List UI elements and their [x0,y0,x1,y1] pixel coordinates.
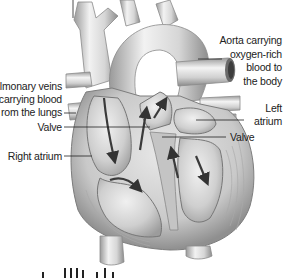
caption-cutoff [0,0,294,278]
heart-diagram: lmonary veins carrying blood rom the lun… [0,0,294,278]
